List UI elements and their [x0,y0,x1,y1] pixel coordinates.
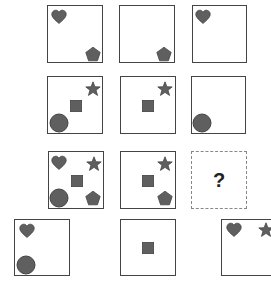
pentagon-icon [85,46,101,62]
square-icon [69,173,85,189]
circle-icon [49,113,69,133]
circle-icon [16,255,36,275]
square-icon [140,173,156,189]
heart-icon [195,9,211,25]
square-icon [140,98,156,114]
grid-cell-r3c2 [120,151,176,209]
pentagon-icon [85,190,101,206]
circle-icon [192,113,212,133]
square-icon [140,240,156,256]
grid-cell-r2c1 [47,76,103,134]
grid-cell-r3c3: ? [191,151,247,209]
heart-icon [226,222,242,238]
option-3[interactable] [221,219,271,276]
pentagon-icon [157,190,173,206]
option-1[interactable] [14,219,70,276]
grid-cell-r1c2 [119,5,175,63]
star-icon [157,81,173,97]
star-icon [85,81,101,97]
heart-icon [51,155,67,171]
square-icon [68,98,84,114]
grid-cell-r1c1 [47,5,103,63]
option-2[interactable] [120,219,176,276]
star-icon [258,222,271,238]
heart-icon [19,223,35,239]
grid-cell-r1c3 [192,5,247,63]
pentagon-icon [156,46,172,62]
star-icon [86,156,102,172]
grid-cell-r2c2 [120,76,176,134]
question-mark: ? [192,169,246,192]
circle-icon [49,188,69,208]
grid-cell-r2c3 [191,76,246,134]
grid-cell-r3c1 [48,151,104,209]
star-icon [157,156,173,172]
heart-icon [51,9,67,25]
